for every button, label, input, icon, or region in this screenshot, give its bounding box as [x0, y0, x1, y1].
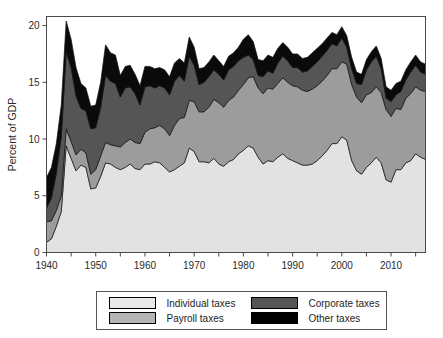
x-tick-label: 1950: [85, 260, 108, 271]
legend-label-corporate-taxes: Corporate taxes: [309, 298, 380, 309]
y-tick-label: 20: [28, 20, 40, 31]
y-tick-label: 10: [28, 134, 40, 145]
stacked-area-chart: 0510152019401950196019701980199020002010…: [0, 0, 443, 338]
legend-swatch-payroll-taxes: [110, 313, 156, 324]
legend-label-payroll-taxes: Payroll taxes: [167, 313, 224, 324]
plot-series-group: [47, 21, 426, 252]
legend-label-other-taxes: Other taxes: [309, 313, 361, 324]
legend-label-individual-taxes: Individual taxes: [167, 298, 236, 309]
x-tick-label: 1940: [35, 260, 58, 271]
y-tick-label: 0: [34, 247, 40, 258]
x-tick-label: 2000: [331, 260, 354, 271]
legend-swatch-individual-taxes: [110, 298, 156, 309]
chart-container: 0510152019401950196019701980199020002010…: [0, 0, 443, 338]
legend-swatch-other-taxes: [252, 313, 298, 324]
x-tick-label: 1970: [183, 260, 206, 271]
x-tick-label: 2010: [380, 260, 403, 271]
y-tick-label: 5: [34, 190, 40, 201]
x-tick-label: 1960: [134, 260, 157, 271]
x-tick-label: 1990: [281, 260, 304, 271]
legend-swatch-corporate-taxes: [252, 298, 298, 309]
y-tick-label: 15: [28, 77, 40, 88]
x-tick-label: 1980: [232, 260, 255, 271]
chart-legend: Individual taxesPayroll taxesCorporate t…: [97, 292, 387, 330]
y-axis-title: Percent of GDP: [6, 98, 18, 172]
